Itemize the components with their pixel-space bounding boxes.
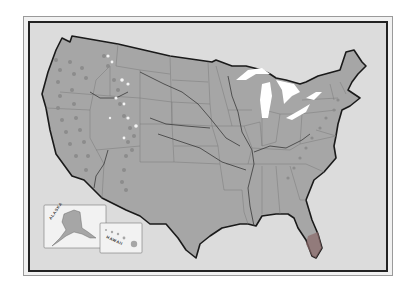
us-map: ALASKA HAWAII bbox=[0, 0, 411, 289]
south-florida-region bbox=[306, 232, 322, 258]
alaska-inset: ALASKA bbox=[44, 201, 106, 248]
hawaii-inset: HAWAII bbox=[100, 223, 142, 253]
